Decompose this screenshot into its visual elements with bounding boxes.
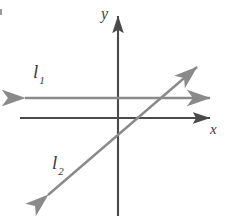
line-label-l2: l2 — [52, 153, 63, 175]
line-label-l1-letter: l — [33, 61, 38, 82]
line-label-l1-subscript: 1 — [39, 74, 45, 86]
line-label-l2-letter: l — [52, 152, 57, 173]
graph-figure: y x l1 l2 — [0, 0, 230, 216]
y-axis-label: y — [101, 6, 108, 22]
line-l2 — [48, 67, 197, 195]
x-axis-label: x — [210, 122, 217, 137]
line-label-l1: l1 — [33, 62, 44, 84]
coordinate-plane-svg — [0, 0, 230, 216]
line-label-l2-subscript: 2 — [58, 165, 64, 177]
